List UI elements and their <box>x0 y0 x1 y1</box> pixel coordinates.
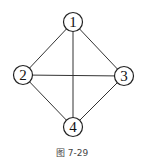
node-4: 4 <box>64 118 83 137</box>
graph-diagram: 1234 <box>0 0 144 168</box>
node-1: 1 <box>64 13 83 32</box>
node-label: 2 <box>19 67 27 83</box>
edge-1-2 <box>23 22 73 75</box>
graph-edges <box>23 22 124 127</box>
edge-2-3 <box>23 75 124 76</box>
node-2: 2 <box>14 66 33 85</box>
graph-figure: 1234 图 7-29 <box>0 0 144 168</box>
node-label: 4 <box>69 119 77 135</box>
figure-caption: 图 7-29 <box>0 146 144 159</box>
edge-2-4 <box>23 75 73 127</box>
node-label: 3 <box>120 68 128 84</box>
edge-3-4 <box>73 76 124 127</box>
node-label: 1 <box>69 14 77 30</box>
edge-1-3 <box>73 22 124 76</box>
node-3: 3 <box>115 67 134 86</box>
